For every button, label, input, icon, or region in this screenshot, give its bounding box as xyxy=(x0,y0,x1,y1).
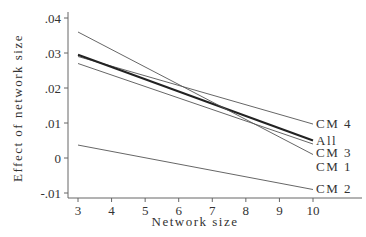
y-tick-label: .03 xyxy=(45,46,61,61)
line-chart: .04.03.02.010-.01345678910 CM 4AllCM 3CM… xyxy=(0,0,366,237)
x-tick-label: 4 xyxy=(108,203,115,218)
y-axis-label: Effect of network size xyxy=(10,34,25,182)
x-tick-label: 8 xyxy=(243,203,250,218)
series-lines xyxy=(78,32,313,190)
series-label: CM 1 xyxy=(316,159,352,174)
x-tick-label: 5 xyxy=(142,203,149,218)
x-tick-label: 3 xyxy=(75,203,82,218)
y-tick-label: .01 xyxy=(45,116,61,131)
y-tick-label: .02 xyxy=(45,81,61,96)
series-line xyxy=(78,64,313,145)
x-axis-label: Network size xyxy=(152,214,239,229)
y-tick-label: -.01 xyxy=(40,186,61,201)
series-line xyxy=(78,55,313,141)
chart-svg: .04.03.02.010-.01345678910 CM 4AllCM 3CM… xyxy=(0,0,366,237)
series-line xyxy=(78,32,313,155)
series-label: CM 2 xyxy=(316,181,352,196)
series-line xyxy=(78,145,313,189)
y-tick-label: .04 xyxy=(45,11,62,26)
x-tick-label: 9 xyxy=(276,203,283,218)
y-tick-label: 0 xyxy=(55,151,62,166)
series-label: CM 4 xyxy=(316,116,352,131)
x-tick-label: 10 xyxy=(307,203,320,218)
series-label: CM 3 xyxy=(316,145,352,160)
series-labels: CM 4AllCM 3CM 1CM 2 xyxy=(316,116,352,196)
axes: .04.03.02.010-.01345678910 xyxy=(40,11,362,218)
